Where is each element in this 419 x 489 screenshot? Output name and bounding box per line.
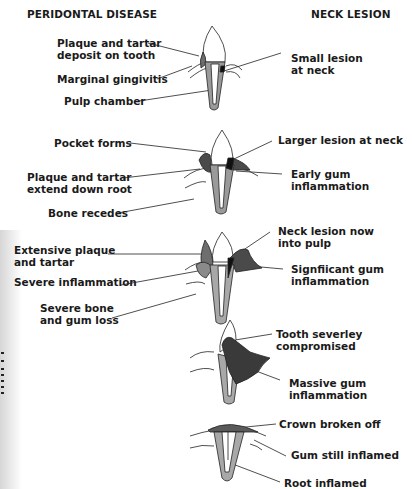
tooth-stage-3 — [185, 232, 262, 324]
tooth-diagram-art — [0, 0, 419, 489]
tooth-stage-4 — [190, 320, 270, 404]
